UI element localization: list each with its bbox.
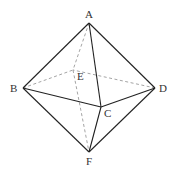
vertex-label-b: B bbox=[10, 83, 17, 94]
hidden-edges bbox=[23, 23, 155, 152]
vertex-label-e: E bbox=[77, 71, 84, 82]
edge-AE bbox=[73, 23, 89, 70]
edge-DF bbox=[89, 88, 155, 152]
vertex-label-d: D bbox=[159, 83, 167, 94]
edge-CD bbox=[101, 88, 155, 107]
vertex-label-c: C bbox=[104, 108, 111, 119]
visible-edges bbox=[23, 23, 155, 152]
edge-DE bbox=[73, 70, 155, 88]
edge-CF bbox=[89, 107, 101, 152]
octahedron-diagram bbox=[0, 0, 179, 180]
edge-AC bbox=[89, 23, 101, 107]
edge-AD bbox=[89, 23, 155, 88]
vertex-label-f: F bbox=[86, 156, 92, 167]
vertex-label-a: A bbox=[85, 9, 93, 20]
edge-BC bbox=[23, 88, 101, 107]
edge-BF bbox=[23, 88, 89, 152]
edge-EF bbox=[73, 70, 89, 152]
edge-BE bbox=[23, 70, 73, 88]
